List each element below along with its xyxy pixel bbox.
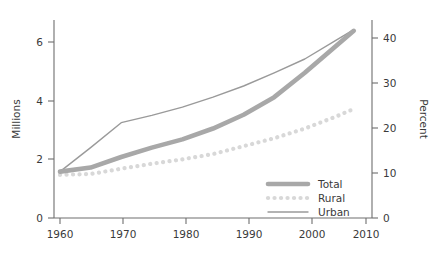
y-tick-label-4: 4 (36, 95, 43, 107)
y-axis-right-ticks (372, 38, 378, 218)
y2-tick-label-0: 0 (383, 212, 390, 224)
legend-item-urban[interactable]: Urban (268, 206, 350, 218)
x-tick-label-1960: 1960 (47, 228, 74, 240)
series-group (60, 30, 354, 175)
x-tick-label-1990: 1990 (236, 228, 263, 240)
series-line-urban (60, 30, 354, 172)
series-line-total (60, 31, 354, 172)
x-tick-label-2010: 2010 (353, 228, 380, 240)
y2-tick-label-10: 10 (383, 167, 396, 179)
y-axis-left-title: Millions (10, 99, 22, 138)
legend-label-urban: Urban (318, 206, 350, 218)
legend-item-total[interactable]: Total (268, 178, 343, 190)
x-tick-label-1980: 1980 (173, 228, 200, 240)
y-axis-right: 40 30 20 10 0 Percent (372, 20, 430, 224)
x-tick-label-1970: 1970 (110, 228, 137, 240)
legend-label-rural: Rural (318, 192, 345, 204)
y-axis-right-title: Percent (418, 99, 430, 139)
legend-item-rural[interactable]: Rural (268, 192, 345, 204)
y2-tick-label-20: 20 (383, 122, 396, 134)
y-tick-label-2: 2 (36, 153, 43, 165)
y-axis-left: 6 4 2 0 Millions (10, 20, 54, 224)
y2-tick-label-40: 40 (383, 32, 396, 44)
y2-tick-label-30: 30 (383, 77, 396, 89)
y-axis-left-ticks (48, 42, 54, 218)
y-tick-label-6: 6 (36, 36, 43, 48)
legend-label-total: Total (317, 178, 343, 190)
chart-container: 6 4 2 0 Millions 40 30 20 10 0 Percent (0, 0, 440, 263)
x-axis-ticks (60, 218, 366, 224)
y-tick-label-0: 0 (36, 212, 43, 224)
legend: Total Rural Urban (268, 178, 350, 218)
x-axis: 1960 1970 1980 1990 2000 2010 (47, 218, 380, 240)
line-chart: 6 4 2 0 Millions 40 30 20 10 0 Percent (0, 0, 440, 263)
x-tick-label-2000: 2000 (299, 228, 326, 240)
